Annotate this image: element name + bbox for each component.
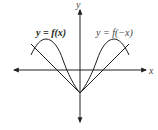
label-f: y = f(x) bbox=[35, 27, 66, 39]
curve-f-reflected bbox=[80, 39, 129, 93]
curve-f bbox=[31, 39, 80, 93]
line-left bbox=[31, 44, 80, 93]
label-f-reflected: y = f(−x) bbox=[95, 27, 133, 39]
y-axis-label: y bbox=[75, 0, 81, 10]
x-axis-label: x bbox=[148, 65, 154, 76]
line-right bbox=[80, 44, 129, 93]
graph-diagram: x y y = f(x) y = f(−x) bbox=[0, 0, 158, 130]
